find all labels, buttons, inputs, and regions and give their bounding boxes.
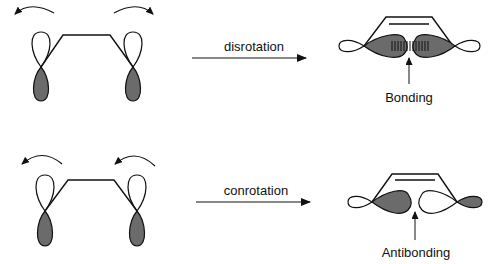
product-bonding: Bonding	[339, 17, 480, 105]
sigma-orbital-small-lobe	[455, 40, 480, 51]
disrotation-label: disrotation	[224, 39, 284, 54]
carbon-backbone	[41, 35, 133, 67]
carbon-backbone	[45, 180, 137, 211]
antibonding-label: Antibonding	[382, 245, 451, 260]
reaction-arrow-disrotation: disrotation	[192, 39, 306, 58]
conrotation-label: conrotation	[224, 183, 288, 198]
reaction-arrow-conrotation: conrotation	[196, 183, 310, 202]
product-antibonding: Antibonding	[348, 174, 482, 260]
p-orbital-top-lobe	[32, 32, 50, 67]
reactant-top	[15, 7, 153, 101]
rotation-arrow-ccw-icon	[22, 156, 62, 165]
p-orbital-bottom-lobe	[33, 67, 48, 101]
p-orbital-bottom-lobe	[125, 67, 140, 101]
rotation-arrow-cw-icon	[114, 7, 153, 14]
rotation-arrow-ccw-icon	[115, 156, 155, 166]
p-orbital-top-lobe	[124, 32, 142, 67]
sigma-orbital-small-lobe	[339, 40, 364, 51]
bonding-label: Bonding	[385, 90, 433, 105]
reactant-bottom	[22, 156, 155, 247]
rotation-arrow-ccw-icon	[15, 7, 54, 14]
